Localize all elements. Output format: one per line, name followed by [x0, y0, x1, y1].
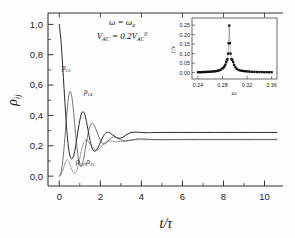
inset-marker	[226, 58, 228, 60]
inset-x-tick-label: 0.28	[217, 82, 228, 88]
main-y-tick-label: 0,2	[30, 140, 43, 151]
main-x-tick-label: 2	[98, 191, 103, 202]
inset-x-tick-label: 0.36	[266, 82, 277, 88]
inset-marker	[258, 71, 260, 73]
main-y-tick-label: 0,4	[30, 110, 43, 121]
inset-marker	[266, 71, 268, 73]
main-x-tick-label: 10	[259, 191, 270, 202]
inset-marker	[228, 24, 230, 26]
inset-marker	[270, 71, 272, 73]
inset-marker	[227, 52, 229, 54]
inset-marker	[229, 42, 231, 44]
inset-marker	[225, 61, 227, 63]
inset-y-tick-label: 0.10	[180, 51, 191, 57]
inset-ylabel-group: 1/τ	[169, 46, 177, 54]
inset-y-tick-label: 0.25	[180, 22, 191, 28]
figure-root: 0,00,20,40,60,81,0 0246810 ρij t/τ ω = ω…	[0, 0, 295, 238]
inset-marker	[233, 64, 235, 66]
main-y-tick-label: 0,0	[30, 171, 43, 182]
main-y-tick-label: 0,8	[30, 49, 43, 60]
inset-x-tick-label: 0.24	[193, 82, 204, 88]
main-x-tick-label: 4	[139, 191, 144, 202]
inset-y-tick-label: 0.20	[180, 32, 191, 38]
inset-x-tick-label: 0.32	[242, 82, 253, 88]
inset-marker	[231, 59, 233, 61]
inset-marker	[256, 71, 258, 73]
main-x-tick-label: 0	[57, 191, 62, 202]
inset-frame	[192, 18, 277, 79]
scientific-figure: 0,00,20,40,60,81,0 0246810 ρij t/τ ω = ω…	[0, 0, 295, 238]
inset-marker	[232, 61, 234, 63]
inset-marker	[224, 64, 226, 66]
main-x-tick-label: 6	[180, 191, 185, 202]
annotation-omega: ω = ωa	[109, 17, 135, 28]
main-y-tick-label: 1,0	[30, 19, 43, 30]
inset-y-tick-label: 0.05	[180, 60, 191, 66]
inset-marker	[229, 52, 231, 54]
main-y-tick-label: 0,6	[30, 79, 43, 90]
main-x-tick-label: 8	[221, 191, 226, 202]
inset-marker	[251, 71, 253, 73]
inset-marker	[253, 71, 255, 73]
inset-xlabel: ω	[232, 89, 237, 97]
inset-marker	[263, 71, 265, 73]
inset-ylabel: 1/τ	[169, 46, 177, 54]
inset-y-tick-label: 0.00	[180, 70, 191, 76]
inset-marker	[268, 71, 270, 73]
main-xlabel: t/τ	[160, 216, 174, 231]
inset-y-tick-label: 0.15	[180, 41, 191, 47]
inset-marker	[248, 70, 250, 72]
inset-marker	[261, 71, 263, 73]
